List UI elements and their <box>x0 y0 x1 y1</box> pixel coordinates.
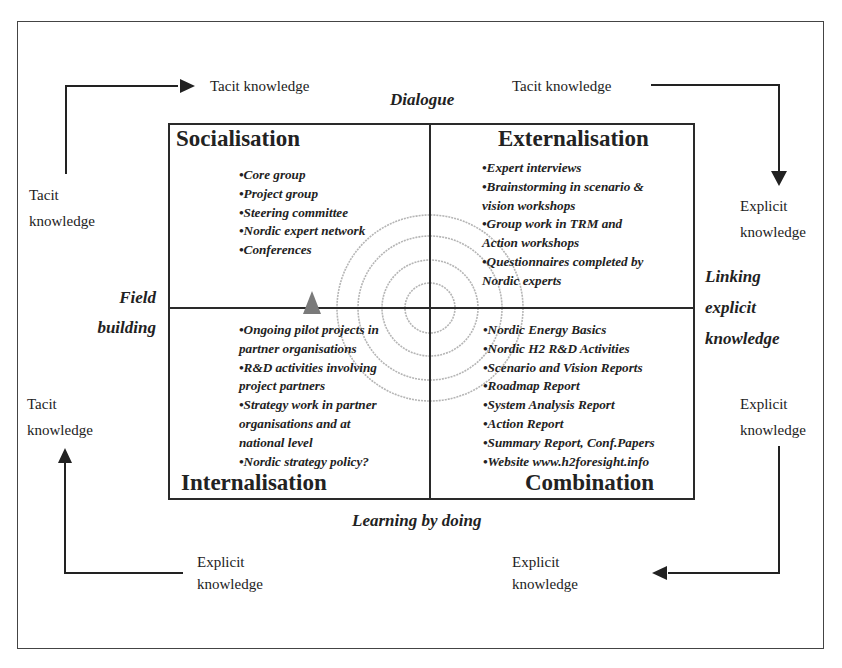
combination-item: •Website www.h2foresight.info <box>483 453 655 472</box>
linking-line-1: Linking <box>705 261 780 292</box>
arrowhead-right-icon <box>180 79 195 93</box>
externalisation-item: vision workshops <box>482 197 644 216</box>
internalisation-item: •R&D activities involving <box>239 359 379 378</box>
internalisation-item: •Strategy work in partner <box>239 396 379 415</box>
left-upper-line-2: knowledge <box>29 208 95 234</box>
externalisation-item: •Expert interviews <box>482 159 644 178</box>
bottom-right-line-1: Explicit <box>512 551 578 573</box>
explicit-knowledge-bottom-right: Explicit knowledge <box>512 551 578 595</box>
socialisation-item: •Nordic expert network <box>239 222 365 241</box>
tacit-knowledge-left-upper: Tacit knowledge <box>29 182 95 234</box>
externalisation-item: •Brainstorming in scenario & <box>482 178 644 197</box>
socialisation-item: •Core group <box>239 166 365 185</box>
combination-item: •Action Report <box>483 415 655 434</box>
field-building-line-2: building <box>90 313 156 343</box>
internalisation-item: organisations and at <box>239 415 379 434</box>
internalisation-item: project partners <box>239 377 379 396</box>
internalisation-item: •Ongoing pilot projects in <box>239 321 379 340</box>
left-lower-line-1: Tacit <box>27 391 93 417</box>
arrowhead-left-icon <box>652 566 667 580</box>
tacit-knowledge-top-left: Tacit knowledge <box>210 73 309 99</box>
right-upper-line-2: knowledge <box>740 219 806 245</box>
left-upper-line-1: Tacit <box>29 182 95 208</box>
bottom-left-line-1: Explicit <box>197 551 263 573</box>
linking-line-3: knowledge <box>705 323 780 354</box>
internalisation-list: •Ongoing pilot projects inpartner organi… <box>239 321 379 471</box>
combination-item: •Roadmap Report <box>483 377 655 396</box>
explicit-knowledge-right-lower: Explicit knowledge <box>740 391 806 443</box>
tacit-knowledge-top-right: Tacit knowledge <box>512 73 611 99</box>
combination-list: •Nordic Energy Basics•Nordic H2 R&D Acti… <box>483 321 655 471</box>
right-lower-line-2: knowledge <box>740 417 806 443</box>
bottom-right-line-2: knowledge <box>512 573 578 595</box>
internalisation-item: national level <box>239 434 379 453</box>
combination-item: •Summary Report, Conf.Papers <box>483 434 655 453</box>
combination-title: Combination <box>525 470 654 496</box>
combination-item: •Scenario and Vision Reports <box>483 359 655 378</box>
dialogue-label: Dialogue <box>390 90 454 110</box>
arrow-top-left <box>66 86 178 174</box>
externalisation-item: Nordic experts <box>482 272 644 291</box>
socialisation-item: •Project group <box>239 185 365 204</box>
externalisation-item: •Questionnaires completed by <box>482 253 644 272</box>
arrowhead-down-icon <box>771 171 787 186</box>
left-lower-line-2: knowledge <box>27 417 93 443</box>
combination-item: •Nordic H2 R&D Activities <box>483 340 655 359</box>
internalisation-title: Internalisation <box>181 470 327 496</box>
right-lower-line-1: Explicit <box>740 391 806 417</box>
socialisation-title: Socialisation <box>176 126 300 152</box>
right-upper-line-1: Explicit <box>740 193 806 219</box>
arrowhead-up-icon <box>58 448 72 463</box>
learning-by-doing-label: Learning by doing <box>352 511 481 531</box>
socialisation-item: •Steering committee <box>239 204 365 223</box>
explicit-knowledge-right-upper: Explicit knowledge <box>740 193 806 245</box>
linking-line-2: explicit <box>705 292 780 323</box>
arrow-bottom-left <box>65 463 183 573</box>
tacit-knowledge-left-lower: Tacit knowledge <box>27 391 93 443</box>
bottom-left-line-2: knowledge <box>197 573 263 595</box>
externalisation-list: •Expert interviews•Brainstorming in scen… <box>482 159 644 291</box>
combination-item: •System Analysis Report <box>483 396 655 415</box>
explicit-knowledge-bottom-left: Explicit knowledge <box>197 551 263 595</box>
externalisation-item: •Group work in TRM and <box>482 215 644 234</box>
combination-item: •Nordic Energy Basics <box>483 321 655 340</box>
field-building-label: Field building <box>90 283 156 343</box>
socialisation-list: •Core group•Project group•Steering commi… <box>239 166 365 260</box>
field-building-line-1: Field <box>90 283 156 313</box>
socialisation-item: •Conferences <box>239 241 365 260</box>
internalisation-item: partner organisations <box>239 340 379 359</box>
internalisation-item: •Nordic strategy policy? <box>239 453 379 472</box>
externalisation-title: Externalisation <box>498 126 649 152</box>
linking-explicit-knowledge-label: Linking explicit knowledge <box>705 261 780 354</box>
externalisation-item: Action workshops <box>482 234 644 253</box>
